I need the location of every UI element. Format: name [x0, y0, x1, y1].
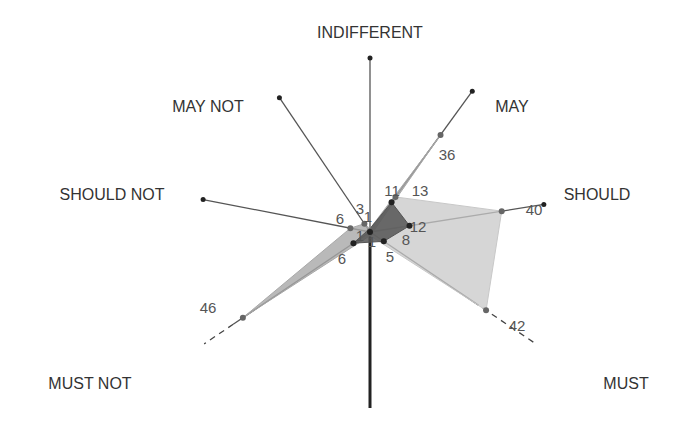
value-label-series-dark-should: 12 — [410, 218, 427, 235]
axis-label-may: MAY — [495, 98, 529, 115]
value-label-extra-1: 8 — [402, 231, 410, 248]
axis-label-indifferent: INDIFFERENT — [317, 24, 423, 41]
data-point-series-light-should — [499, 208, 505, 214]
axis-label-must: MUST — [603, 375, 649, 392]
value-label-extra-2: 1 — [356, 227, 364, 244]
axis-end-dot-may — [470, 89, 475, 94]
value-label-extra-0: 13 — [412, 182, 429, 199]
axis-label-should: SHOULD — [564, 186, 631, 203]
value-label-series-dark-must-not: 6 — [338, 250, 346, 267]
data-point-series-dark-may — [389, 199, 395, 205]
axis-end-dot-may-not — [277, 95, 282, 100]
value-label-series-mid-may: 36 — [439, 146, 456, 163]
value-label-extra-3: 1 — [368, 233, 376, 250]
labels-layer: INDIFFERENTMAYSHOULDMUSTMUST NOTSHOULD N… — [48, 24, 649, 392]
value-label-series-light-must: 42 — [509, 317, 526, 334]
polygons-layer — [243, 135, 502, 318]
axis-label-may-not: MAY NOT — [172, 98, 244, 115]
value-label-series-dark-must: 5 — [386, 248, 394, 265]
data-point-series-mid-must-not — [240, 315, 246, 321]
value-label-series-light-should: 40 — [526, 201, 543, 218]
data-point-series-dark-must — [381, 238, 387, 244]
axis-line-should-not — [203, 200, 370, 232]
axis-label-must-not: MUST NOT — [48, 375, 131, 392]
data-point-series-mid-may — [438, 132, 444, 138]
value-label-extra-4: 1 — [364, 208, 372, 225]
axis-end-dot-should-not — [201, 197, 206, 202]
value-label-series-mid-should-not: 6 — [336, 210, 344, 227]
value-label-series-dark-may: 11 — [384, 182, 400, 199]
axis-label-should-not: SHOULD NOT — [60, 186, 165, 203]
data-point-series-light-must — [483, 307, 489, 313]
axis-end-dot-indifferent — [368, 56, 373, 61]
data-point-series-mid-should-not — [347, 225, 353, 231]
axis-dashed-must-not — [204, 324, 233, 344]
value-label-series-mid-must-not: 46 — [200, 299, 217, 316]
radar-chart: INDIFFERENTMAYSHOULDMUSTMUST NOTSHOULD N… — [0, 0, 688, 428]
